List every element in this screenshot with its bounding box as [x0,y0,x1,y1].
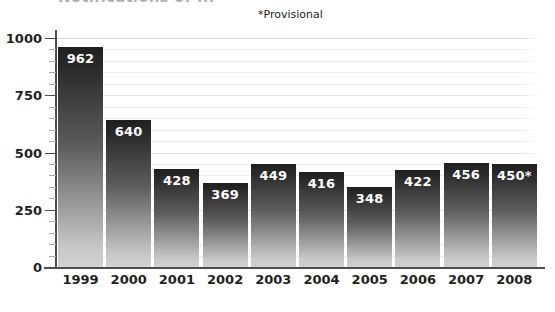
x-axis-label: 2000 [106,272,151,287]
bar[interactable]: 449 [251,164,296,267]
x-axis-label: 2002 [203,272,248,287]
x-axis-label: 1999 [58,272,103,287]
x-axis-label: 2001 [154,272,199,287]
bar-value-label: 962 [58,51,103,66]
bar-value-label: 422 [395,174,440,189]
bar-value-label: 450* [492,168,537,183]
bar[interactable]: 416 [299,172,344,267]
x-axis-label: 2006 [395,272,440,287]
bar-value-label: 640 [106,124,151,139]
bar[interactable]: 450* [492,164,537,267]
x-axis-label: 2003 [251,272,296,287]
bar[interactable]: 640 [106,120,151,267]
bar[interactable]: 962 [58,47,103,267]
x-axis-label: 2004 [299,272,344,287]
bar[interactable]: 428 [154,169,199,267]
bar-value-label: 428 [154,173,199,188]
bar-value-label: 369 [203,187,248,202]
bar[interactable]: 422 [395,170,440,267]
bar-value-label: 348 [347,191,392,206]
bar[interactable]: 456 [444,163,489,267]
bars-layer: 962640428369449416348422456450* [0,0,555,312]
bar-chart: Notifications of ... *Provisional 025050… [0,0,555,312]
bar-value-label: 416 [299,176,344,191]
bar-value-label: 449 [251,168,296,183]
bar[interactable]: 369 [203,183,248,268]
bar-value-label: 456 [444,167,489,182]
x-axis-label: 2007 [444,272,489,287]
x-axis-label: 2008 [492,272,537,287]
x-axis-label: 2005 [347,272,392,287]
bar[interactable]: 348 [347,187,392,267]
